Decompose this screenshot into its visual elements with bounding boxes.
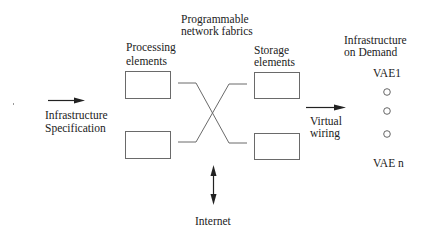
fabrics-label: Programmable network fabrics xyxy=(181,13,253,37)
infrastructure-on-demand-label: Infrastructure on Demand xyxy=(344,34,407,58)
vae-last-label: VAE n xyxy=(373,157,404,169)
vae-dot-2 xyxy=(384,108,391,115)
stray-dot xyxy=(13,103,14,105)
virtual-wiring-label: Virtual wiring xyxy=(310,115,342,139)
vae-dot-3 xyxy=(384,131,391,138)
processing-element-box-2 xyxy=(126,132,171,159)
storage-element-box-2 xyxy=(255,134,300,160)
internet-arrow xyxy=(211,165,217,205)
vae-dot-1 xyxy=(384,89,391,96)
storage-elements-label: Storage elements xyxy=(254,44,295,68)
internet-label: Internet xyxy=(195,215,231,227)
storage-element-box-1 xyxy=(255,73,300,99)
vae-first-label: VAE1 xyxy=(373,67,401,79)
processing-element-box-1 xyxy=(126,72,171,99)
spec-arrow xyxy=(48,98,85,104)
infrastructure-diagram: Programmable network fabrics Processing … xyxy=(0,0,428,240)
infrastructure-specification-label: Infrastructure Specification xyxy=(45,109,108,134)
processing-elements-label: Processing elements xyxy=(126,41,176,67)
fabric-link-2 xyxy=(178,84,247,142)
virtual-wiring-arrow xyxy=(306,105,346,111)
